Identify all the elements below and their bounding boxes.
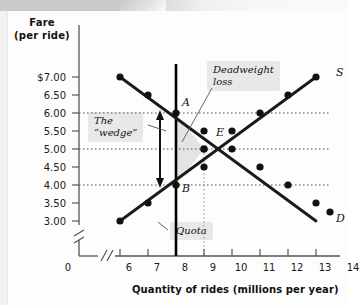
demand-point (312, 199, 319, 206)
y-axis-break-mark (74, 230, 84, 236)
supply-point (200, 163, 207, 170)
wedge-arrow-head-down (156, 178, 164, 188)
demand-point (116, 73, 123, 80)
demand-point (256, 163, 263, 170)
demand-point (200, 127, 207, 134)
demand-point (284, 181, 291, 188)
supply-point (284, 91, 291, 98)
equilibrium-point-e (200, 145, 208, 153)
supply-point (256, 109, 263, 116)
wedge-arrow-head-up (156, 110, 164, 120)
supply-point (116, 217, 123, 224)
x-axis-break-mark (101, 250, 107, 261)
supply-point (144, 199, 151, 206)
wedge-leader-line (148, 125, 166, 131)
supply-point (228, 127, 235, 134)
x-axis-break-mark (107, 250, 113, 261)
quota-leader-line (158, 222, 168, 230)
demand-point (144, 91, 151, 98)
supply-point-b (172, 181, 179, 188)
demand-point-a (172, 109, 179, 116)
demand-endpoint (326, 208, 333, 215)
supply-point (312, 73, 319, 80)
demand-point (228, 145, 235, 152)
